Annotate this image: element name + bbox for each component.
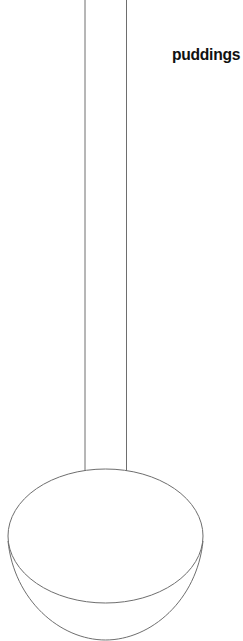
bowl-underside (8, 541, 203, 640)
bowl-rim (8, 469, 203, 603)
ladle-drawing (0, 0, 243, 641)
ladle-label: puddings (172, 45, 240, 65)
